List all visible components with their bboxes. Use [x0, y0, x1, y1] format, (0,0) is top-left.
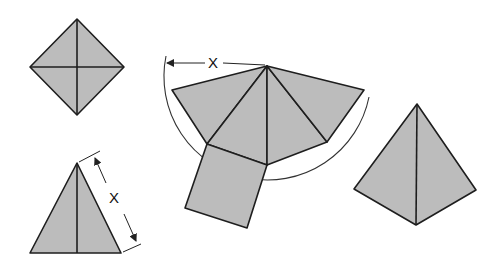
pyramid-net-diagram: X X	[0, 0, 500, 270]
net: X	[164, 54, 369, 228]
side-view: X	[30, 151, 141, 253]
pyramid-3d	[354, 104, 476, 225]
side-dimension-label: X	[109, 189, 119, 206]
net-dimension-label: X	[208, 54, 218, 71]
diagram-canvas: X X	[0, 0, 500, 270]
top-view	[30, 19, 124, 115]
